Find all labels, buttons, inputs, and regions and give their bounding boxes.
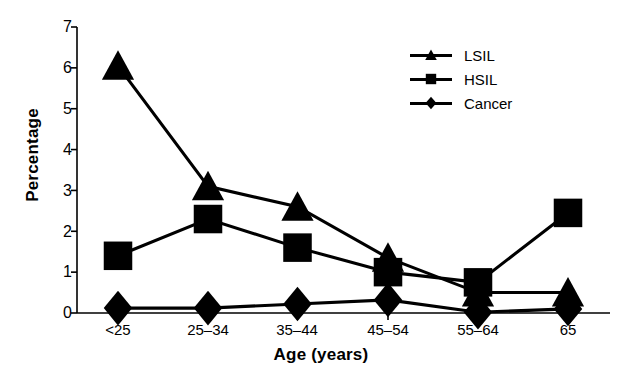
legend-item-hsil: HSIL [408, 67, 558, 91]
legend-marker-square-icon [408, 69, 454, 89]
legend-label-lsil: LSIL [454, 47, 495, 64]
legend-label-cancer: Cancer [454, 95, 512, 112]
chart-legend: LSIL HSIL Cancer [408, 43, 558, 115]
legend-label-hsil: HSIL [454, 71, 497, 88]
legend-item-cancer: Cancer [408, 91, 558, 115]
caption-clipped-strip [68, 378, 568, 387]
legend-marker-diamond-icon [408, 93, 454, 113]
series-line-cancer [118, 300, 568, 312]
line-chart-figure: Percentage Age (years) 7 6 5 4 3 2 1 0 <… [0, 0, 642, 388]
legend-item-lsil: LSIL [408, 43, 558, 67]
legend-marker-triangle-icon [408, 45, 454, 65]
series-line-hsil [118, 213, 568, 282]
